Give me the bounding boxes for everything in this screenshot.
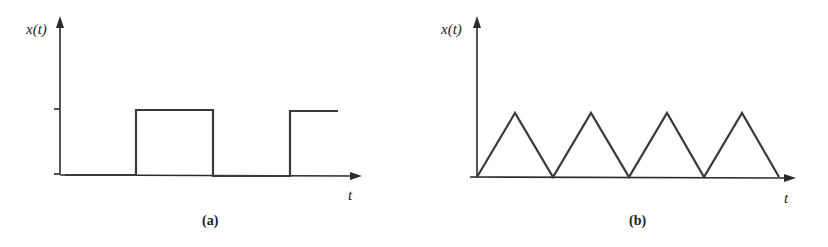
y-label-b: x(t) <box>440 21 462 38</box>
figure-a: x(t) t (a) <box>25 16 362 229</box>
triangle-wave <box>477 113 779 177</box>
y-axis-arrow-b <box>473 16 481 28</box>
figure-b: x(t) t (b) <box>440 16 796 229</box>
x-label-b: t <box>784 190 789 206</box>
x-axis-arrow-a <box>350 172 362 180</box>
caption-a: (a) <box>202 213 219 229</box>
square-wave <box>65 110 338 176</box>
y-axis-arrow-a <box>56 16 64 28</box>
figure-canvas: x(t) t (a) x(t) t (b) <box>0 0 828 247</box>
x-label-a: t <box>348 187 353 203</box>
y-label-a: x(t) <box>25 21 47 38</box>
caption-b: (b) <box>629 213 646 229</box>
x-axis-arrow-b <box>784 174 796 182</box>
